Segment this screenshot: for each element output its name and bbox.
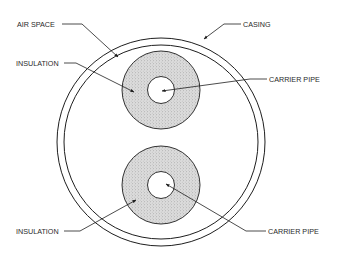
label-insulation-bottom: INSULATION	[16, 227, 59, 236]
label-insulation-top: INSULATION	[16, 59, 59, 68]
casing-leader	[204, 24, 241, 39]
label-air-space: AIR SPACE	[17, 20, 55, 29]
label-carrier-pipe-top: CARRIER PIPE	[269, 75, 320, 84]
carrier-pipe-bottom	[148, 172, 175, 199]
label-carrier-pipe-bottom: CARRIER PIPE	[268, 227, 319, 236]
label-casing: CASING	[243, 20, 271, 29]
pipe-cross-section-diagram: AIR SPACE INSULATION CASING CARRIER PIPE…	[0, 0, 341, 254]
